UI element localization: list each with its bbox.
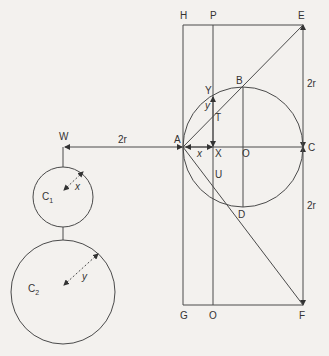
geometry-diagram: H P E Y B y T A x X O C U D G O F W 2r 2… (0, 0, 329, 356)
label-W: W (59, 131, 69, 142)
label-x: x (196, 148, 203, 159)
label-B: B (236, 75, 243, 86)
label-X: X (215, 148, 222, 159)
label-2r-EC: 2r (307, 78, 317, 89)
label-C: C (308, 142, 315, 153)
label-D: D (238, 209, 245, 220)
label-P: P (210, 10, 217, 21)
label-2r-CF: 2r (307, 200, 317, 211)
label-F: F (299, 310, 305, 321)
label-A: A (174, 134, 181, 145)
label-Y: Y (205, 85, 212, 96)
label-T: T (215, 112, 221, 123)
label-C2: C2 (28, 283, 39, 296)
circle-C2 (11, 240, 115, 344)
diagram-canvas: H P E Y B y T A x X O C U D G O F W 2r 2… (0, 0, 329, 356)
label-U: U (215, 169, 222, 180)
label-y: y (204, 100, 211, 111)
label-O: O (242, 148, 250, 159)
radius-C1 (64, 172, 83, 190)
label-C1: C1 (42, 191, 53, 204)
label-x-C1: x (74, 181, 81, 192)
label-O-bottom: O (209, 310, 217, 321)
label-2r-WA: 2r (118, 134, 128, 145)
radius-C2 (64, 254, 98, 285)
label-E: E (298, 10, 305, 21)
label-G: G (180, 310, 188, 321)
label-y-C2: y (81, 271, 88, 282)
label-H: H (180, 10, 187, 21)
